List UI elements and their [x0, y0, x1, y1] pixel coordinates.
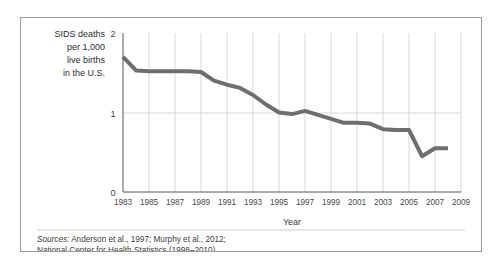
x-tick-label-1999: 1999 — [322, 198, 341, 207]
x-tick-label-2009: 2009 — [452, 198, 471, 207]
x-tick-label-2007: 2007 — [426, 198, 445, 207]
y-axis-label-line-2: per 1,000 — [67, 42, 105, 52]
x-axis-title: Year — [283, 217, 301, 227]
sources-line-1: Sources: Anderson et al., 1997; Murphy e… — [37, 235, 226, 244]
y-axis-label-line-4: in the U.S. — [63, 68, 105, 78]
x-tick-label-1985: 1985 — [140, 198, 159, 207]
x-tick-label-1993: 1993 — [244, 198, 263, 207]
x-tick-label-1987: 1987 — [166, 198, 185, 207]
sources-line-2: National Center for Health Statistics (1… — [37, 246, 218, 251]
y-axis-label-line-1: SIDS deaths — [54, 29, 105, 39]
x-tick-label-1995: 1995 — [270, 198, 289, 207]
x-tick-label-2005: 2005 — [400, 198, 419, 207]
x-tick-label-1991: 1991 — [218, 198, 237, 207]
y-tick-label-0: 0 — [110, 188, 115, 198]
y-axis-label-line-3: live births — [67, 55, 106, 65]
x-tick-label-2001: 2001 — [348, 198, 367, 207]
sources-line-1-rest: Anderson et al., 1997; Murphy et al., 20… — [69, 235, 226, 244]
x-tick-label-1989: 1989 — [192, 198, 211, 207]
x-tick-label-1983: 1983 — [114, 198, 133, 207]
x-tick-label-1997: 1997 — [296, 198, 315, 207]
sources-label: Sources: — [37, 235, 69, 244]
figure-frame: SIDS deaths per 1,000 live births in the… — [20, 17, 482, 252]
sids-rate-line-chart: SIDS deaths per 1,000 live births in the… — [21, 18, 481, 251]
x-axis-tick-labels: 1983 1985 1987 1989 1991 1993 1995 1997 … — [114, 198, 471, 207]
y-tick-label-2: 2 — [110, 29, 115, 39]
sids-rate-series — [123, 57, 448, 156]
x-tick-label-2003: 2003 — [374, 198, 393, 207]
y-tick-label-1: 1 — [110, 109, 115, 119]
